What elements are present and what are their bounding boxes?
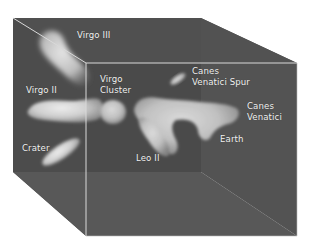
galaxy-cube-diagram: Virgo III Virgo Cluster Canes Venatici S… <box>0 0 312 251</box>
label-earth: Earth <box>220 134 244 145</box>
label-text: Venatici <box>247 112 282 123</box>
label-text: Venatici Spur <box>192 77 250 88</box>
label-text: Canes <box>247 101 282 112</box>
label-canes-venatici-spur: Canes Venatici Spur <box>192 66 250 88</box>
label-text: Virgo <box>100 74 131 85</box>
label-crater: Crater <box>22 143 50 154</box>
label-virgo-cluster: Virgo Cluster <box>100 74 131 96</box>
cube-graphic <box>0 0 312 251</box>
label-virgo-iii: Virgo III <box>77 30 110 41</box>
label-text: Canes <box>192 66 250 77</box>
label-text: Virgo II <box>26 85 57 96</box>
label-text: Cluster <box>100 85 131 96</box>
label-leo-ii: Leo II <box>136 153 160 164</box>
label-text: Crater <box>22 143 50 154</box>
label-text: Earth <box>220 134 244 145</box>
label-canes-venatici: Canes Venatici <box>247 101 282 123</box>
label-text: Virgo III <box>77 30 110 41</box>
label-text: Leo II <box>136 153 160 164</box>
label-virgo-ii: Virgo II <box>26 85 57 96</box>
